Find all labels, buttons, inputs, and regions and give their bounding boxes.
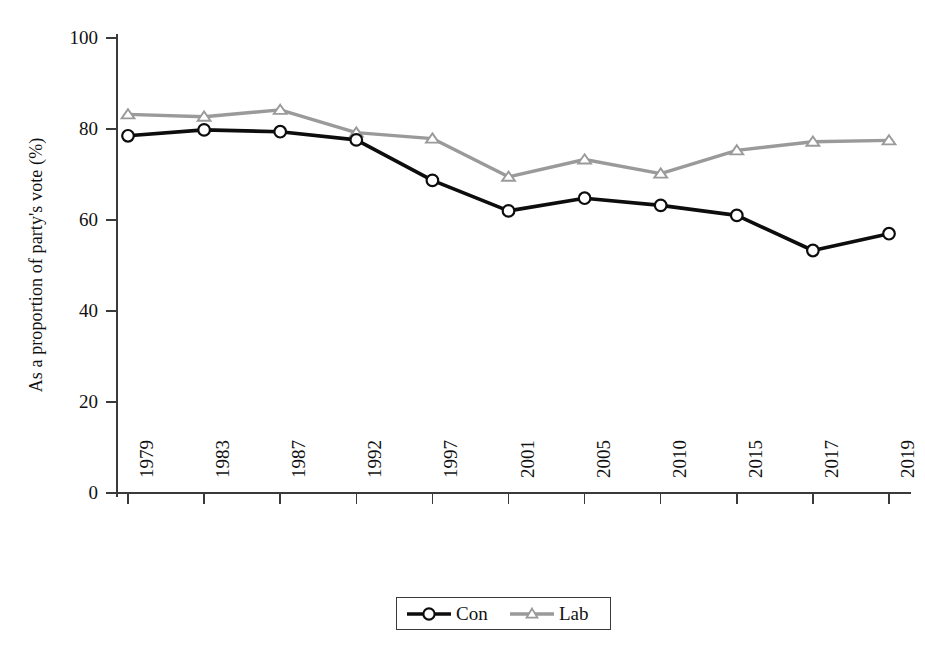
- data-point-circle-icon: [655, 200, 667, 212]
- data-point-circle-icon: [198, 124, 210, 136]
- legend-key-circle-icon: [407, 604, 451, 624]
- legend-key-triangle-icon: [510, 604, 554, 624]
- series-layer: [0, 0, 925, 656]
- legend-label-lab: Lab: [559, 604, 589, 623]
- legend-entry-lab: Lab: [510, 598, 589, 629]
- series-line: [128, 110, 889, 177]
- series-line: [128, 130, 889, 251]
- data-point-circle-icon: [122, 130, 134, 142]
- data-point-circle-icon: [883, 228, 895, 240]
- data-point-circle-icon: [351, 134, 363, 146]
- data-point-circle-icon: [503, 205, 515, 217]
- series-lab: [122, 105, 896, 181]
- data-point-circle-icon: [579, 192, 591, 204]
- data-point-circle-icon: [427, 175, 439, 187]
- legend-label-con: Con: [456, 604, 488, 623]
- data-point-circle-icon: [731, 210, 743, 222]
- line-chart: As a proportion of party's vote (%) 0204…: [0, 0, 925, 656]
- data-point-circle-icon: [807, 245, 819, 257]
- legend: Con Lab: [396, 597, 611, 630]
- legend-entry-con: Con: [407, 598, 488, 629]
- data-point-circle-icon: [274, 126, 286, 138]
